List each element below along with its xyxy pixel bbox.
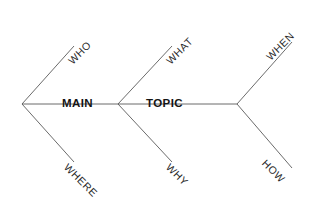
spine-label-topic: TOPIC: [146, 98, 183, 110]
spine-label-main: MAIN: [62, 98, 93, 110]
branch-line-what: [118, 46, 172, 104]
branch-line-who: [22, 46, 74, 104]
fishbone-diagram: MAIN TOPIC WHO WHAT WHEN WHERE WHY HOW: [0, 0, 320, 212]
branch-line-why: [118, 104, 172, 162]
branch-line-where: [22, 104, 74, 162]
branch-line-how: [237, 104, 292, 168]
